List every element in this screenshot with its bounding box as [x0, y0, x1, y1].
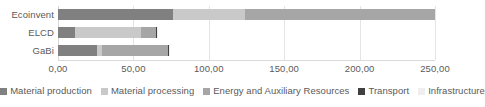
legend-item[interactable]: Infrastructure [418, 85, 485, 97]
legend-swatch-icon [358, 88, 365, 95]
legend-item[interactable]: Material processing [101, 85, 194, 97]
x-tick-label-1: 50,00 [121, 62, 145, 75]
legend-swatch-icon [203, 88, 210, 95]
bar-segment [102, 45, 168, 56]
legend-item[interactable]: Transport [358, 85, 409, 97]
bar-segment [157, 27, 158, 38]
legend-label: Energy and Auxiliary Resources [213, 85, 349, 97]
gridline-250,00 [435, 6, 436, 60]
x-axis: 0,00 50,00 100,00 150,00 200,00 250,00 [0, 62, 485, 76]
x-tick-label-2: 100,00 [194, 62, 224, 75]
stacked-bar-chart: Ecoinvent ELCD GaBi 0,00 50,00 100,00 15… [0, 0, 485, 107]
legend-swatch-icon [101, 88, 108, 95]
category-axis: Ecoinvent ELCD GaBi [0, 6, 54, 60]
x-tick-label-5: 250,00 [420, 62, 450, 75]
bar-row-ecoinvent [58, 9, 435, 20]
x-tick-label-3: 150,00 [269, 62, 299, 75]
bar-segment [169, 45, 170, 56]
bar-segment [141, 27, 156, 38]
legend-label: Infrastructure [428, 85, 485, 97]
legend-label: Transport [368, 85, 409, 97]
chart-legend: Material productionMaterial processingEn… [0, 84, 485, 98]
category-label-gabi: GaBi [0, 45, 54, 56]
legend-item[interactable]: Energy and Auxiliary Resources [203, 85, 349, 97]
bar-row-elcd [58, 27, 158, 38]
bar-segment [245, 9, 435, 20]
bar-segment [173, 9, 245, 20]
bar-row-gabi [58, 45, 170, 56]
x-axis-line [58, 60, 435, 61]
legend-item[interactable]: Material production [0, 85, 92, 97]
bar-segment [58, 27, 75, 38]
x-tick-label-4: 200,00 [345, 62, 375, 75]
category-label-elcd: ELCD [0, 27, 54, 38]
legend-swatch-icon [418, 88, 425, 95]
plot-area [58, 6, 435, 60]
legend-swatch-icon [0, 88, 7, 95]
bar-segment [58, 9, 173, 20]
legend-label: Material processing [111, 85, 194, 97]
legend-label: Material production [10, 85, 92, 97]
bar-segment [75, 27, 141, 38]
bar-segment [58, 45, 97, 56]
x-tick-label-0: 0,00 [49, 62, 68, 75]
category-label-ecoinvent: Ecoinvent [0, 9, 54, 20]
